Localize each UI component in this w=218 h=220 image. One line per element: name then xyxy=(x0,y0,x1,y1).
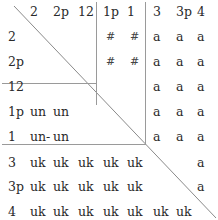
table-cell: # xyxy=(106,30,115,44)
table-cell: a xyxy=(197,156,204,170)
column-header: 3p xyxy=(176,5,192,19)
table-cell: a xyxy=(153,55,160,69)
table-cell: uk xyxy=(30,156,46,170)
table-cell: uk xyxy=(103,205,119,219)
table-cell: a xyxy=(197,130,204,144)
row-header: 3 xyxy=(8,156,16,170)
row-header: 1p xyxy=(8,105,24,119)
vertical-rule-after-1 xyxy=(145,2,146,145)
table-cell: a xyxy=(197,105,204,119)
table-cell: uk xyxy=(103,180,119,194)
row-header: 3p xyxy=(8,180,24,194)
vertical-rule-after-12 xyxy=(96,2,97,105)
column-header: 4 xyxy=(197,5,205,19)
table-cell: # xyxy=(106,55,115,69)
table-cell: uk xyxy=(30,205,46,219)
table-cell: a xyxy=(197,80,204,94)
table-cell: un xyxy=(53,130,69,144)
column-header: 2p xyxy=(53,5,69,19)
table-cell: un- xyxy=(30,130,50,144)
table-cell: a xyxy=(153,130,160,144)
table-cell: a xyxy=(176,130,183,144)
table-cell: a xyxy=(197,30,204,44)
table-cell: uk xyxy=(127,205,143,219)
table-cell: a xyxy=(176,80,183,94)
column-header: 2 xyxy=(30,5,38,19)
row-header: 2p xyxy=(8,55,24,69)
table-cell: a xyxy=(153,30,160,44)
table-cell: uk xyxy=(127,180,143,194)
table-cell: uk xyxy=(78,205,94,219)
table-cell: a xyxy=(176,30,183,44)
row-header: 12 xyxy=(8,80,24,94)
table-cell: a xyxy=(176,105,183,119)
column-header: 3 xyxy=(153,5,161,19)
table-cell: uk xyxy=(78,180,94,194)
table-cell: uk xyxy=(176,205,192,219)
column-header: 12 xyxy=(78,5,94,19)
table-cell: uk xyxy=(153,205,169,219)
table-cell: uk xyxy=(53,180,69,194)
table-cell: uk xyxy=(30,180,46,194)
table-cell: # xyxy=(130,30,139,44)
table-cell: uk xyxy=(103,156,119,170)
table-cell: uk xyxy=(53,156,69,170)
table-cell: a xyxy=(176,55,183,69)
table-cell: a xyxy=(197,180,204,194)
table-cell: a xyxy=(153,105,160,119)
table-cell: # xyxy=(130,55,139,69)
table-cell: uk xyxy=(127,156,143,170)
column-header: 1 xyxy=(127,5,135,19)
column-header: 1p xyxy=(103,5,119,19)
row-header: 4 xyxy=(8,205,16,219)
table-cell: uk xyxy=(53,205,69,219)
horizontal-rule-after-1 xyxy=(2,144,146,145)
table-cell: a xyxy=(153,80,160,94)
table-cell: un xyxy=(53,105,69,119)
table-cell: uk xyxy=(78,156,94,170)
table-cell: un xyxy=(30,105,46,119)
row-header: 2 xyxy=(8,30,16,44)
table-cell: a xyxy=(197,55,204,69)
row-header: 1 xyxy=(8,130,16,144)
